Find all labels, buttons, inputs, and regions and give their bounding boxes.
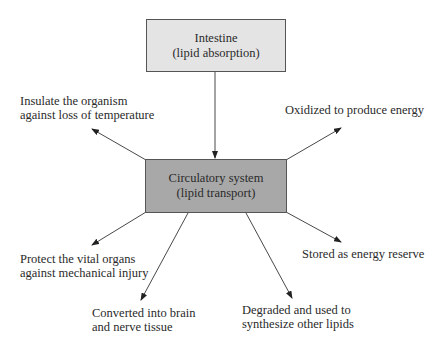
degrade-label: Degraded and used to synthesize other li…: [242, 303, 354, 331]
arrow-to-store: [286, 212, 341, 242]
protect-line1: Protect the vital organs: [20, 252, 148, 266]
convert-line2: and nerve tissue: [92, 320, 195, 334]
convert-line1: Converted into brain: [92, 306, 195, 320]
arrow-to-insulate: [92, 129, 146, 160]
circulatory-subtitle: (lipid transport): [177, 186, 256, 201]
store-label: Stored as energy reserve: [302, 247, 424, 261]
oxidize-label: Oxidized to produce energy: [285, 103, 424, 117]
convert-label: Converted into brain and nerve tissue: [92, 306, 195, 334]
intestine-title: Intestine: [194, 31, 237, 46]
oxidize-line1: Oxidized to produce energy: [285, 103, 424, 117]
arrow-to-degrade: [246, 213, 292, 298]
circulatory-node: Circulatory system (lipid transport): [145, 159, 287, 213]
arrow-to-protect: [92, 212, 146, 245]
insulate-line1: Insulate the organism: [20, 94, 154, 108]
store-line1: Stored as energy reserve: [302, 247, 424, 261]
degrade-line1: Degraded and used to: [242, 303, 354, 317]
degrade-line2: synthesize other lipids: [242, 317, 354, 331]
insulate-label: Insulate the organism against loss of te…: [20, 94, 154, 122]
circulatory-title: Circulatory system: [169, 171, 264, 186]
intestine-subtitle: (lipid absorption): [172, 46, 259, 61]
insulate-line2: against loss of temperature: [20, 108, 154, 122]
intestine-node: Intestine (lipid absorption): [146, 19, 286, 72]
protect-label: Protect the vital organs against mechani…: [20, 252, 148, 280]
protect-line2: against mechanical injury: [20, 266, 148, 280]
arrow-to-oxidize: [286, 128, 341, 160]
